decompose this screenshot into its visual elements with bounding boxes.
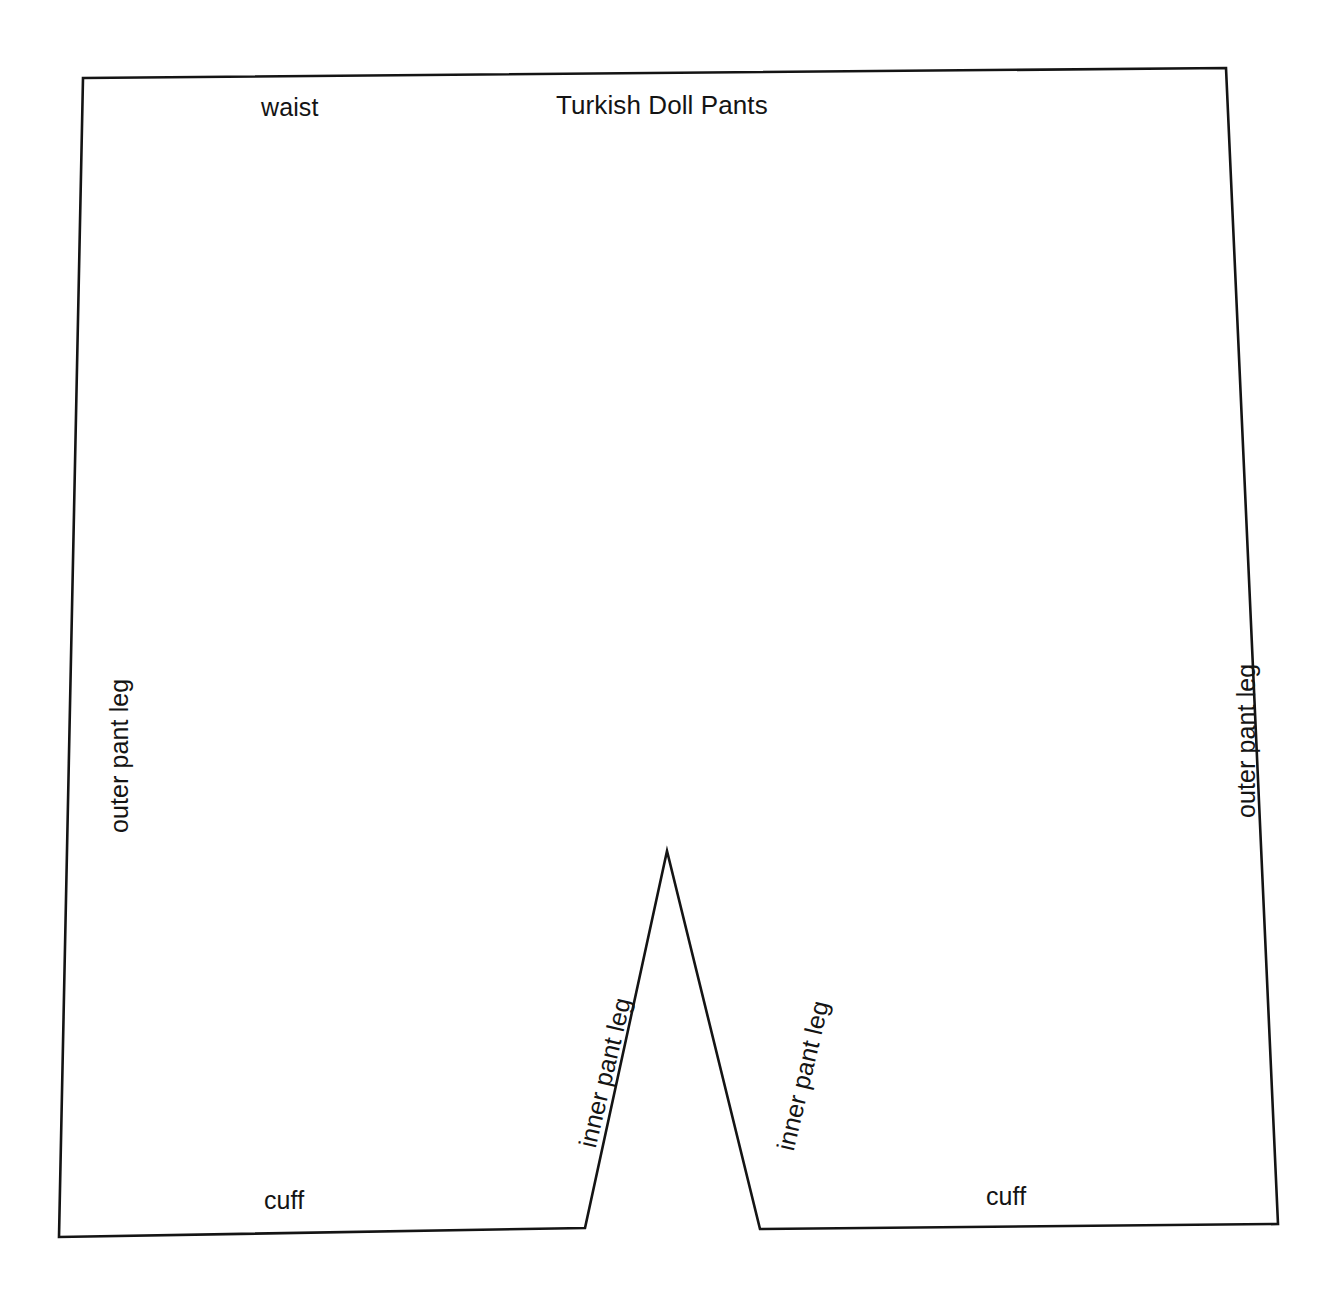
edge-label-cuff-left: cuff xyxy=(264,1188,304,1213)
pattern-title: Turkish Doll Pants xyxy=(556,92,768,118)
edge-label-waist: waist xyxy=(261,95,318,120)
edge-label-outer-pant-leg-right: outer pant leg xyxy=(1234,664,1259,818)
pattern-page: Turkish Doll Pants waist outer pant leg … xyxy=(0,0,1333,1290)
edge-label-outer-pant-leg-left: outer pant leg xyxy=(107,679,132,833)
pattern-outline-svg xyxy=(0,0,1333,1290)
pants-outline-shape xyxy=(59,68,1278,1237)
edge-label-cuff-right: cuff xyxy=(986,1184,1026,1209)
